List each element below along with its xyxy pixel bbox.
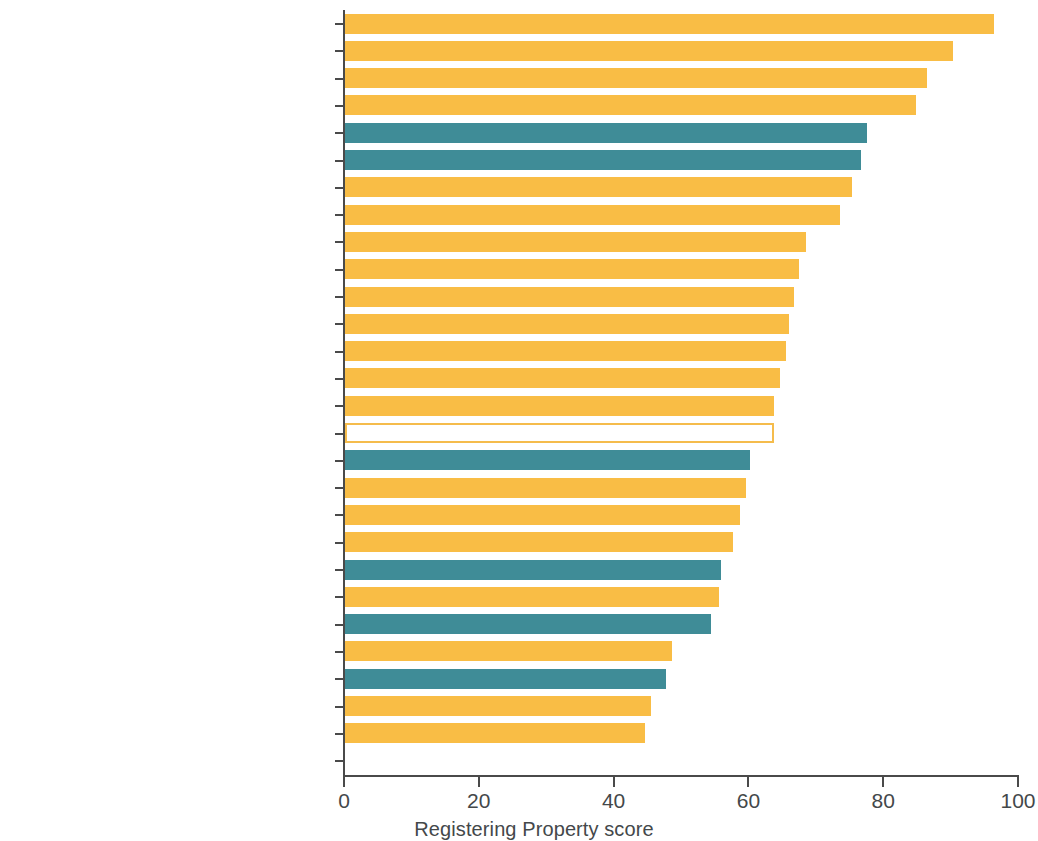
y-axis-tick: [335, 378, 344, 380]
bar-row: Europe and Central Asia: [344, 147, 1018, 174]
bar: [345, 232, 806, 252]
bar-row: Lebanon: [344, 474, 1018, 501]
y-axis-tick: [335, 569, 344, 571]
y-axis-tick: [335, 323, 344, 325]
y-axis-tick: [335, 78, 344, 80]
y-axis-tick: [335, 50, 344, 52]
y-axis-tick: [335, 214, 344, 216]
x-axis-tick-label: 40: [602, 788, 625, 814]
bar-row: Latin American and the Caribbean: [344, 556, 1018, 583]
y-axis-tick: [335, 678, 344, 680]
bar: [345, 478, 746, 498]
y-axis-tick: [335, 706, 344, 708]
x-axis-tick-label: 60: [737, 788, 760, 814]
bar: [345, 723, 645, 743]
x-axis-tick: [747, 777, 749, 787]
bar: [345, 696, 651, 716]
bar: [345, 177, 852, 197]
bar-row: South Asia: [344, 665, 1018, 692]
x-axis-title: Registering Property score: [0, 818, 1038, 841]
bar-row: Israel: [344, 256, 1018, 283]
bar: [345, 95, 916, 115]
bar-row: Egypt, Arab Rep.: [344, 583, 1018, 610]
bar-row: Algeria: [344, 720, 1018, 747]
bar: [345, 341, 786, 361]
bar-row: North America: [344, 119, 1018, 146]
bar: [345, 587, 719, 607]
x-axis-tick: [613, 777, 615, 787]
bar-row: Djibouti: [344, 501, 1018, 528]
bar: [345, 368, 780, 388]
registering-property-score-bar-chart: QatarUnited Arab EmiratesBahrainSaudi Ar…: [0, 0, 1038, 841]
y-axis-tick: [335, 351, 344, 353]
bar: [345, 641, 672, 661]
bar: [345, 532, 733, 552]
bar: [345, 314, 789, 334]
bar-row: Bahrain: [344, 65, 1018, 92]
bar-row: Syrian Arab Republic: [344, 693, 1018, 720]
bar: [345, 505, 740, 525]
y-axis-tick: [335, 733, 344, 735]
x-axis-tick-label: 0: [338, 788, 350, 814]
y-axis-tick: [335, 433, 344, 435]
y-axis-tick: [335, 132, 344, 134]
bar: [345, 150, 861, 170]
bar: [345, 423, 774, 443]
x-axis-title-text: Registering Property score: [414, 818, 653, 841]
bar: [345, 68, 927, 88]
bar-row: United Arab Emirates: [344, 37, 1018, 64]
x-axis-tick-label: 20: [467, 788, 490, 814]
x-axis-spine: [343, 775, 1019, 777]
y-axis-tick: [335, 542, 344, 544]
plot-area: QatarUnited Arab EmiratesBahrainSaudi Ar…: [344, 10, 1018, 775]
bar-row: Jordan: [344, 283, 1018, 310]
y-axis-tick: [335, 624, 344, 626]
y-axis-tick: [335, 23, 344, 25]
bar: [345, 450, 750, 470]
y-axis-tick: [335, 514, 344, 516]
bar: [345, 41, 953, 61]
bar-row: Iran, Islamic Rep.: [344, 228, 1018, 255]
y-axis-tick: [335, 269, 344, 271]
bar-row: West Bank and Gaza: [344, 365, 1018, 392]
bar-row: Qatar: [344, 10, 1018, 37]
y-axis-tick: [335, 596, 344, 598]
x-axis-tick-label: 100: [1000, 788, 1035, 814]
x-axis-tick: [1017, 777, 1019, 787]
y-axis-tick: [335, 760, 344, 762]
bar: [345, 396, 774, 416]
bar-row: Kuwait: [344, 174, 1018, 201]
bar: [345, 287, 794, 307]
bar: [345, 614, 711, 634]
bar: [345, 669, 666, 689]
x-axis-tick: [882, 777, 884, 787]
bar: [345, 205, 840, 225]
bar-row: East Asia and Pacific: [344, 447, 1018, 474]
x-axis-tick: [343, 777, 345, 787]
bar-row: Tunisia: [344, 392, 1018, 419]
bar-row: Oman: [344, 201, 1018, 228]
bar-row: Saudi Arabia: [344, 92, 1018, 119]
y-axis-tick: [335, 487, 344, 489]
y-axis-tick: [335, 405, 344, 407]
y-axis-tick: [335, 187, 344, 189]
bar-row: Malta: [344, 638, 1018, 665]
bar-row: Morocco: [344, 310, 1018, 337]
bar: [345, 123, 867, 143]
y-axis-tick: [335, 160, 344, 162]
bar-row: Sub-Saharan Africa: [344, 611, 1018, 638]
bar-row: Libya: [344, 747, 1018, 774]
bar-row: Iraq: [344, 529, 1018, 556]
bar-row: Middle East and North Africa: [344, 420, 1018, 447]
y-axis-tick: [335, 651, 344, 653]
bar: [345, 560, 721, 580]
bar-row: Yemen, Rep.: [344, 338, 1018, 365]
x-axis-tick: [478, 777, 480, 787]
x-axis-tick-label: 80: [872, 788, 895, 814]
y-axis-tick: [335, 241, 344, 243]
bar: [345, 14, 994, 34]
y-axis-tick: [335, 460, 344, 462]
y-axis-tick: [335, 105, 344, 107]
y-axis-tick: [335, 296, 344, 298]
bar: [345, 259, 799, 279]
